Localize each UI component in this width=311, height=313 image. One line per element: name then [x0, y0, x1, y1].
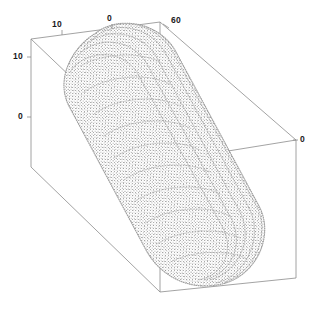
- tick-label-top-0: 0: [107, 13, 112, 23]
- tick-label-left-10: 10: [13, 51, 23, 61]
- tick-label-corner-60: 60: [171, 15, 181, 25]
- capsule-point-cloud: [50, 10, 290, 300]
- plot-svg: [0, 0, 311, 313]
- tick-label-left-0: 0: [18, 111, 23, 121]
- tick-label-corner-0: 0: [300, 134, 305, 144]
- tick-label-top-10: 10: [52, 19, 62, 29]
- plot-canvas: 10 0 60 10 0 0: [0, 0, 311, 313]
